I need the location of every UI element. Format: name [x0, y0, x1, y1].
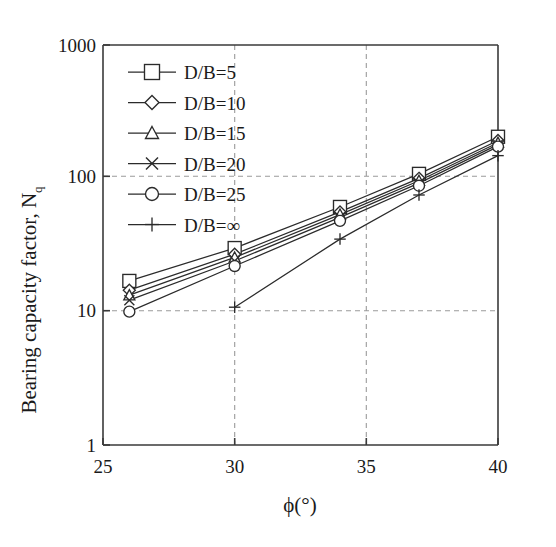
- chart-figure: 1000 100 10 1 25 30 35 40 Bearing capaci…: [0, 0, 556, 547]
- y-axis-title-sub: q: [30, 186, 45, 193]
- chart-background: [0, 0, 556, 547]
- y-axis-title-main: Bearing capacity factor, N: [17, 193, 41, 414]
- bearing-capacity-chart: 1000 100 10 1 25 30 35 40 Bearing capaci…: [0, 0, 556, 547]
- circle-marker-pt2: [335, 215, 346, 226]
- legend-label: D/B=5: [184, 62, 236, 83]
- legend-label: D/B=∞: [184, 215, 240, 236]
- legend-label: D/B=20: [184, 154, 245, 175]
- x-tick-label-35: 35: [357, 456, 376, 477]
- x-tick-label-25: 25: [94, 456, 113, 477]
- circle-marker-pt1: [229, 261, 240, 272]
- legend-label: D/B=10: [184, 93, 245, 114]
- y-tick-label-100: 100: [68, 166, 97, 187]
- x-axis-title-unit: (°): [294, 493, 316, 517]
- y-tick-label-10: 10: [77, 300, 96, 321]
- x-axis-title-symbol: ϕ: [283, 493, 294, 517]
- x-tick-label-30: 30: [225, 456, 244, 477]
- square-marker-legend: [145, 65, 160, 80]
- y-axis-title: Bearing capacity factor, Nq: [17, 186, 45, 414]
- circle-marker-pt0: [124, 306, 135, 317]
- x-axis-title: ϕ(°): [283, 493, 316, 517]
- x-tick-label-40: 40: [489, 456, 508, 477]
- legend-label: D/B=15: [184, 123, 245, 144]
- y-tick-label-1: 1: [87, 435, 97, 456]
- circle-marker-legend: [146, 188, 159, 201]
- y-tick-label-1000: 1000: [58, 35, 96, 56]
- legend-label: D/B=25: [184, 184, 245, 205]
